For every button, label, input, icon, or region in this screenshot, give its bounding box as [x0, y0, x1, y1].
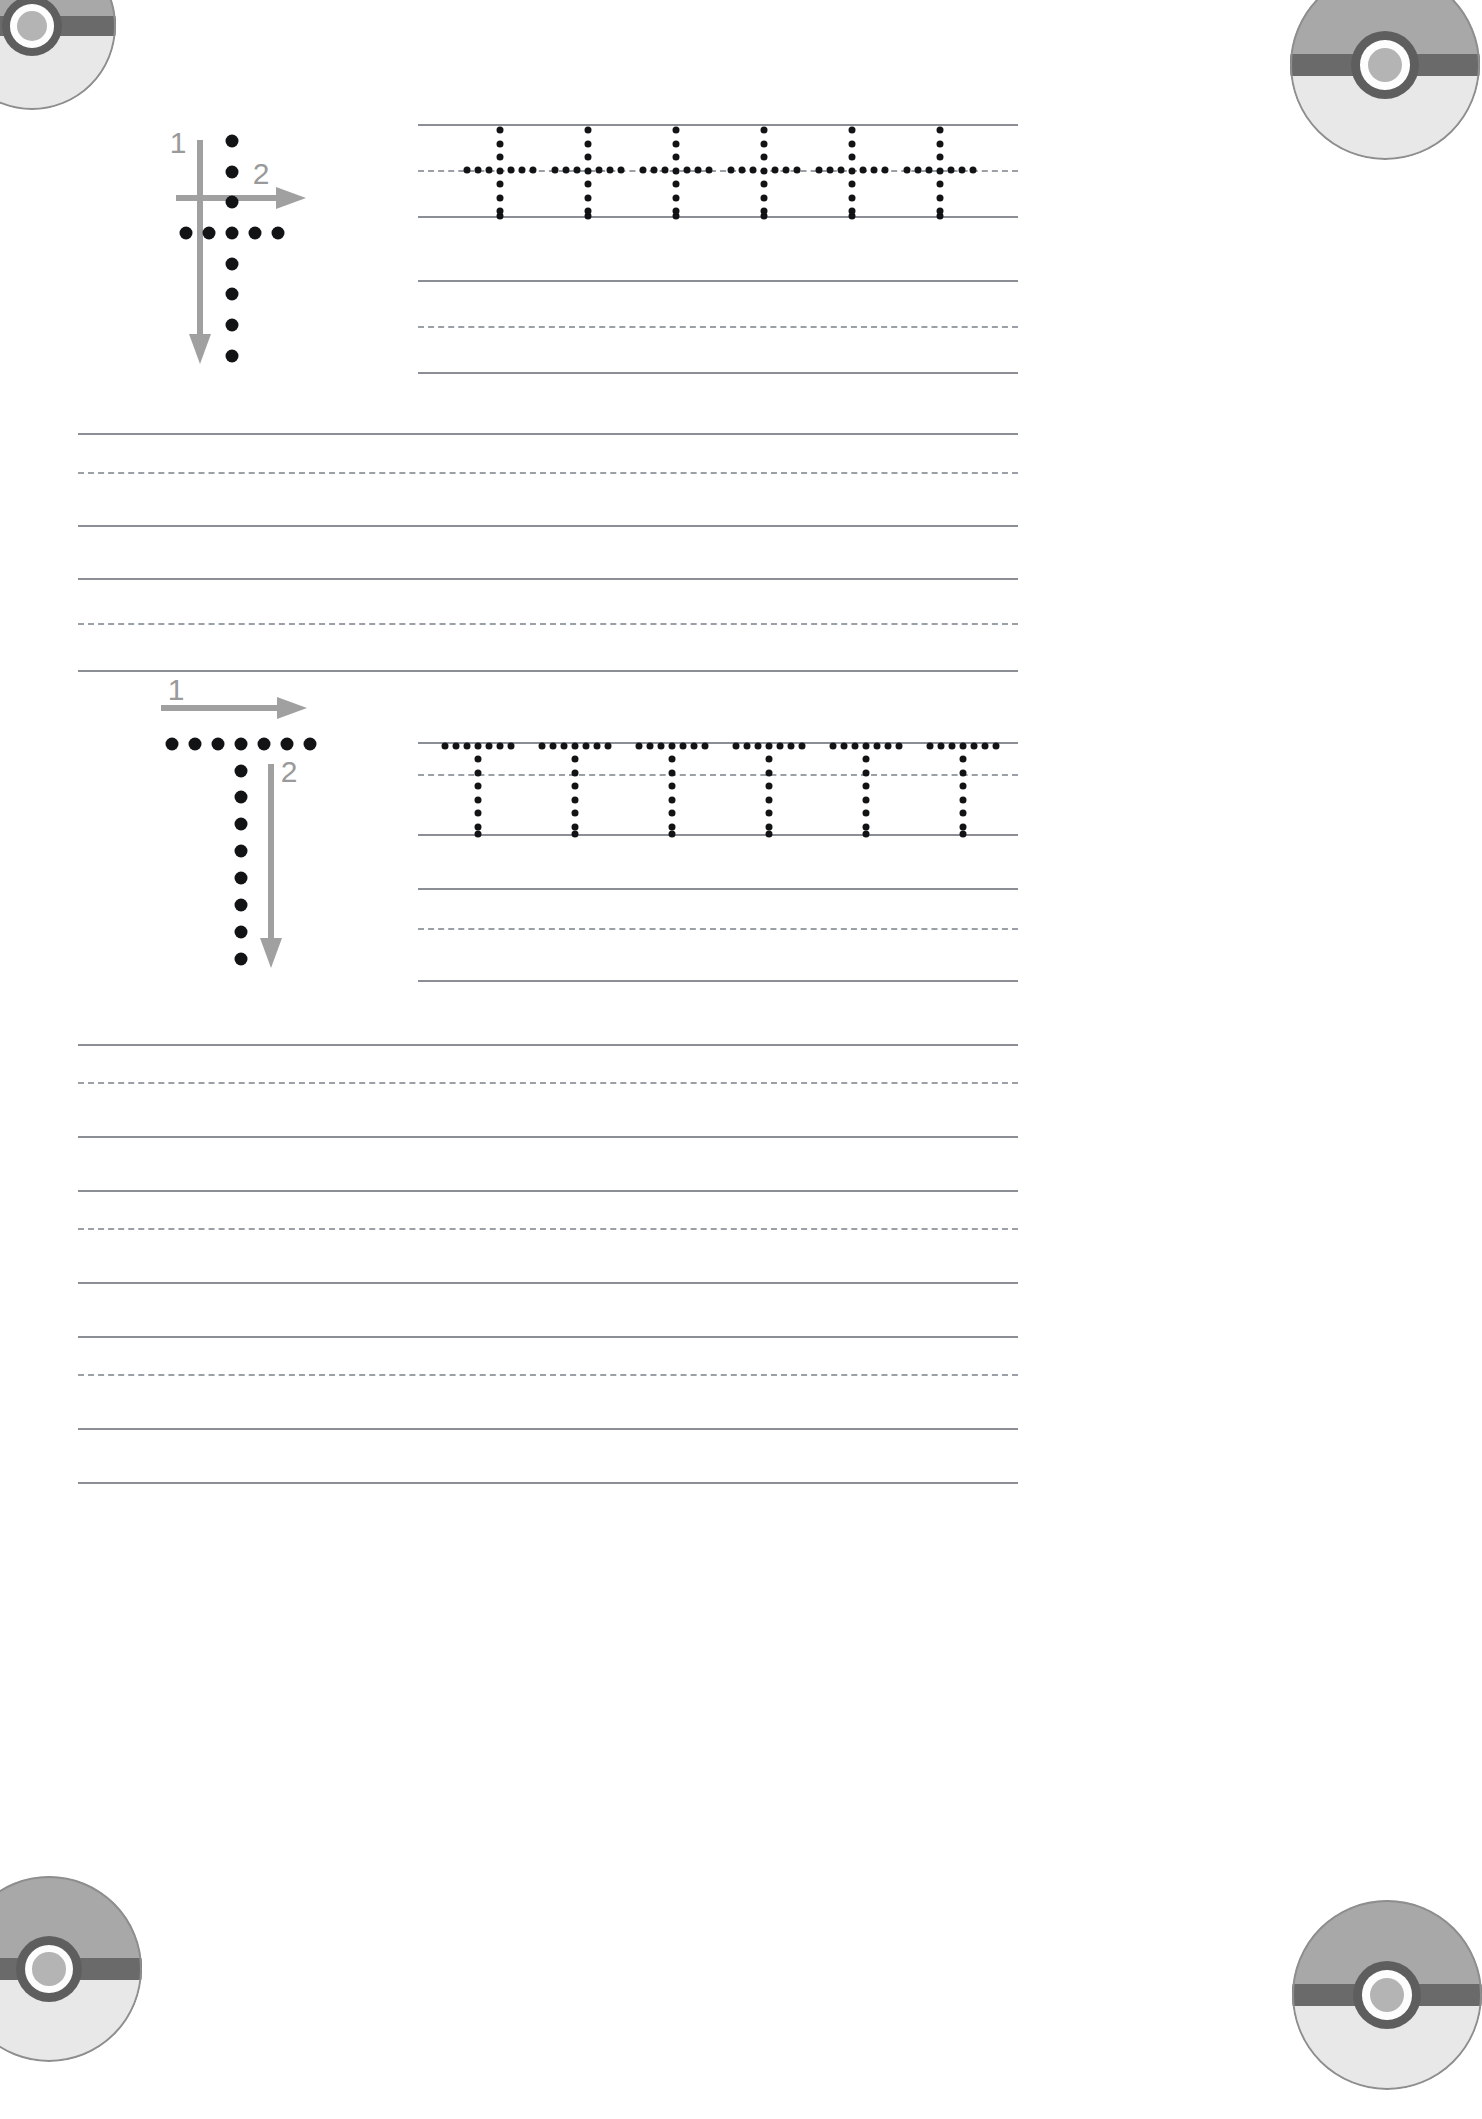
guide-line-baseline	[418, 372, 1018, 374]
guide-line-top	[418, 888, 1018, 890]
pokeball-bottom-left	[0, 1876, 142, 2062]
stroke-guide-lowercase-t	[160, 120, 340, 380]
guide-line-top	[78, 1336, 1018, 1338]
guide-line-midline	[78, 1082, 1018, 1084]
guide-line-midline	[418, 170, 1018, 172]
guide-line-baseline	[78, 1482, 1018, 1484]
guide-line-top	[418, 124, 1018, 126]
guide-line-top	[418, 742, 1018, 744]
guide-line-baseline	[78, 525, 1018, 527]
stroke-number-2-lowercase-t: 2	[253, 157, 270, 191]
pokeball-bottom-right	[1292, 1900, 1482, 2090]
stroke-number-2-uppercase-T: 2	[281, 755, 298, 789]
pokeball-rim	[1292, 1900, 1482, 2090]
guide-line-midline	[418, 774, 1018, 776]
guide-line-baseline	[418, 834, 1018, 836]
practice-row	[78, 578, 1018, 670]
guide-line-midline	[78, 472, 1018, 474]
guide-line-baseline	[418, 216, 1018, 218]
practice-row	[78, 1044, 1018, 1136]
guide-line-baseline	[78, 1136, 1018, 1138]
guide-line-midline	[78, 1374, 1018, 1376]
guide-line-midline	[78, 1228, 1018, 1230]
trace-row-uppercase-T	[418, 742, 1018, 834]
stroke-number-1-lowercase-t: 1	[170, 126, 187, 160]
guide-line-baseline	[418, 980, 1018, 982]
stroke-2-arrow-down	[260, 764, 282, 968]
guide-line-midline	[418, 326, 1018, 328]
stroke-guide-uppercase-T	[155, 672, 345, 992]
guide-line-baseline	[78, 1282, 1018, 1284]
guide-line-top	[78, 1044, 1018, 1046]
stroke-2-arrow-right	[176, 187, 306, 209]
stroke-number-1-uppercase-T: 1	[168, 673, 185, 707]
practice-row	[418, 280, 1018, 372]
guide-line-midline	[78, 623, 1018, 625]
guide-line-midline	[418, 928, 1018, 930]
practice-row	[418, 888, 1018, 980]
trace-row-lowercase-t	[418, 124, 1018, 216]
worksheet-page: 1 2	[0, 0, 1482, 2119]
practice-row	[78, 1336, 1018, 1428]
guide-line-top	[418, 280, 1018, 282]
pokeball-top-right	[1290, 0, 1480, 160]
guide-line-top	[78, 433, 1018, 435]
pokeball-top-left	[0, 0, 116, 110]
practice-row	[78, 433, 1018, 525]
practice-row	[78, 1190, 1018, 1282]
guide-line-top	[78, 578, 1018, 580]
guide-line-top	[78, 1190, 1018, 1192]
guide-line-baseline	[78, 1428, 1018, 1430]
stroke-1-arrow-down	[189, 140, 211, 364]
